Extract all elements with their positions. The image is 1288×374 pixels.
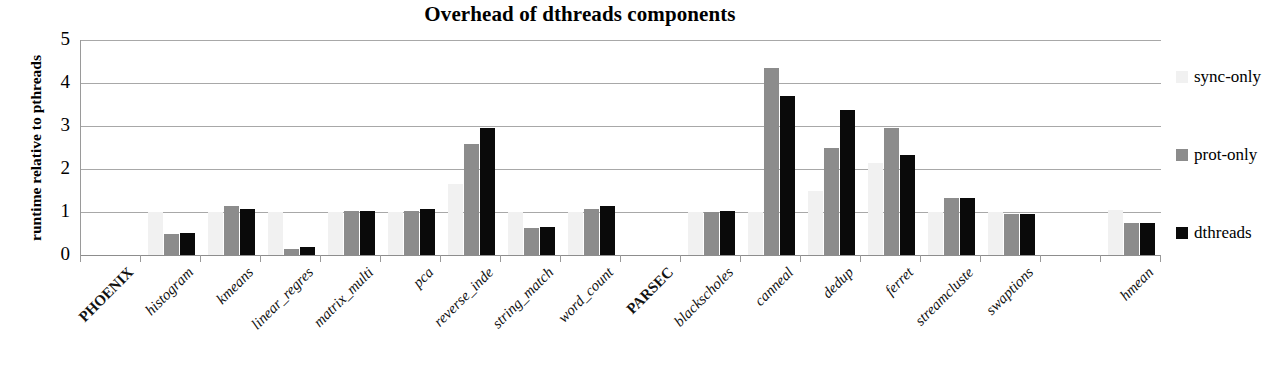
x-axis-label-text: streamcluste <box>912 264 977 329</box>
x-tick <box>740 255 741 262</box>
x-tick <box>800 255 801 262</box>
bar-dthreads-streamcluste <box>960 198 975 255</box>
bar-group <box>801 40 861 255</box>
bar-prot-only-reverse_inde <box>464 144 479 255</box>
bar-group <box>681 40 741 255</box>
bar-sync-only-hmean <box>1108 210 1123 255</box>
y-tick-label-1: 1 <box>10 201 70 220</box>
x-tick <box>1040 255 1041 262</box>
bar-dthreads-dedup <box>840 110 855 255</box>
x-axis-label-text: histogram <box>142 264 197 319</box>
x-axis-label-text: PARSEC <box>623 264 677 318</box>
x-tick <box>260 255 261 262</box>
legend-item-prot-only[interactable]: prot-only <box>1176 146 1288 164</box>
x-axis-label-text: hmean <box>1117 264 1157 304</box>
x-tick <box>500 255 501 262</box>
y-tick-label-2: 2 <box>10 158 70 177</box>
x-axis-label-text: blackscholes <box>671 264 737 330</box>
bar-prot-only-linear_regres <box>284 249 299 255</box>
bar-dthreads-linear_regres <box>300 247 315 255</box>
bar-dthreads-kmeans <box>240 209 255 255</box>
y-axis-title: runtime relative to pthreads <box>27 28 45 268</box>
x-tick <box>1100 255 1101 262</box>
bar-group <box>441 40 501 255</box>
y-tick-label-4: 4 <box>10 72 70 91</box>
bar-group <box>201 40 261 255</box>
x-tick <box>560 255 561 262</box>
bar-sync-only-reverse_inde <box>448 184 463 255</box>
x-axis-label-text: word_count <box>555 264 617 326</box>
x-tick <box>860 255 861 262</box>
x-axis-label-text: swaptions <box>983 264 1037 318</box>
bar-group <box>1101 40 1161 255</box>
bar-group <box>261 40 321 255</box>
x-tick <box>680 255 681 262</box>
bar-prot-only-hmean <box>1124 223 1139 255</box>
y-tick-label-5: 5 <box>10 29 70 48</box>
x-tick <box>320 255 321 262</box>
x-axis-label-text: canneal <box>751 264 797 310</box>
chart-title: Overhead of dthreads components <box>0 2 1160 27</box>
legend-label: dthreads <box>1194 223 1252 243</box>
bar-dthreads-reverse_inde <box>480 128 495 255</box>
x-tick <box>140 255 141 262</box>
x-axis-label-text: kmeans <box>213 264 257 308</box>
x-tick <box>1160 255 1161 262</box>
bar-dthreads-ferret <box>900 155 915 255</box>
x-tick <box>620 255 621 262</box>
legend-item-sync-only[interactable]: sync-only <box>1176 68 1288 86</box>
bar-group <box>861 40 921 255</box>
plot-area: 012345 <box>80 40 1160 255</box>
legend-swatch-dthreads <box>1176 227 1188 239</box>
legend-label: sync-only <box>1194 67 1261 87</box>
legend-item-dthreads[interactable]: dthreads <box>1176 224 1288 242</box>
x-axis-label-text: reverse_inde <box>431 264 497 330</box>
x-tick <box>440 255 441 262</box>
x-axis-label-text: matrix_multi <box>310 264 377 331</box>
bar-dthreads-hmean <box>1140 223 1155 255</box>
bar-dthreads-blackscholes <box>720 211 735 255</box>
x-axis-label-text: PHOENIX <box>75 264 137 326</box>
legend-swatch-prot-only <box>1176 149 1188 161</box>
bar-prot-only-streamcluste <box>944 198 959 255</box>
chart-legend: sync-onlyprot-onlydthreads <box>1176 68 1288 302</box>
x-axis-label-text: dedup <box>819 264 857 302</box>
legend-swatch-sync-only <box>1176 71 1188 83</box>
y-tick-label-0: 0 <box>10 244 70 263</box>
x-tick <box>80 255 81 262</box>
x-axis-label-text: pca <box>410 264 437 291</box>
bar-dthreads-histogram <box>180 233 195 255</box>
bar-group <box>921 40 981 255</box>
x-axis-label-text: ferret <box>882 264 917 299</box>
y-tick-label-3: 3 <box>10 115 70 134</box>
x-axis-label-text: string_match <box>489 264 557 332</box>
x-tick <box>380 255 381 262</box>
x-tick <box>980 255 981 262</box>
legend-label: prot-only <box>1194 145 1257 165</box>
chart-container: Overhead of dthreads components runtime … <box>0 0 1288 374</box>
bar-group <box>81 40 141 255</box>
x-tick <box>920 255 921 262</box>
x-tick <box>200 255 201 262</box>
bar-group <box>1041 40 1101 255</box>
bar-prot-only-ferret <box>884 128 899 255</box>
